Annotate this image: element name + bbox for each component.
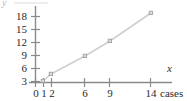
- x-tick-label-9: 9: [103, 88, 117, 99]
- plot-area: [0, 0, 187, 101]
- x-axis-unit-label: cases: [160, 87, 183, 99]
- x-axis-title: x: [167, 62, 172, 74]
- x-tick-label-2: 2: [45, 88, 59, 99]
- chart-figure: y: [0, 0, 187, 101]
- y-tick-label-9: 9: [7, 50, 27, 61]
- data-point-2: [49, 72, 52, 75]
- data-markers: [41, 11, 152, 82]
- y-tick-label-12: 12: [7, 37, 27, 48]
- y-tick-label-3: 3: [7, 76, 27, 87]
- y-tick-label-18: 18: [7, 11, 27, 22]
- data-point-4: [108, 39, 111, 42]
- x-tick-label-6: 6: [78, 88, 92, 99]
- data-point-1: [41, 79, 44, 82]
- data-point-3: [83, 54, 86, 57]
- y-tick-label-15: 15: [7, 24, 27, 35]
- data-point-5: [149, 11, 152, 14]
- data-line: [43, 13, 151, 81]
- x-tick-label-14: 14: [143, 88, 159, 99]
- y-tick-label-6: 6: [7, 63, 27, 74]
